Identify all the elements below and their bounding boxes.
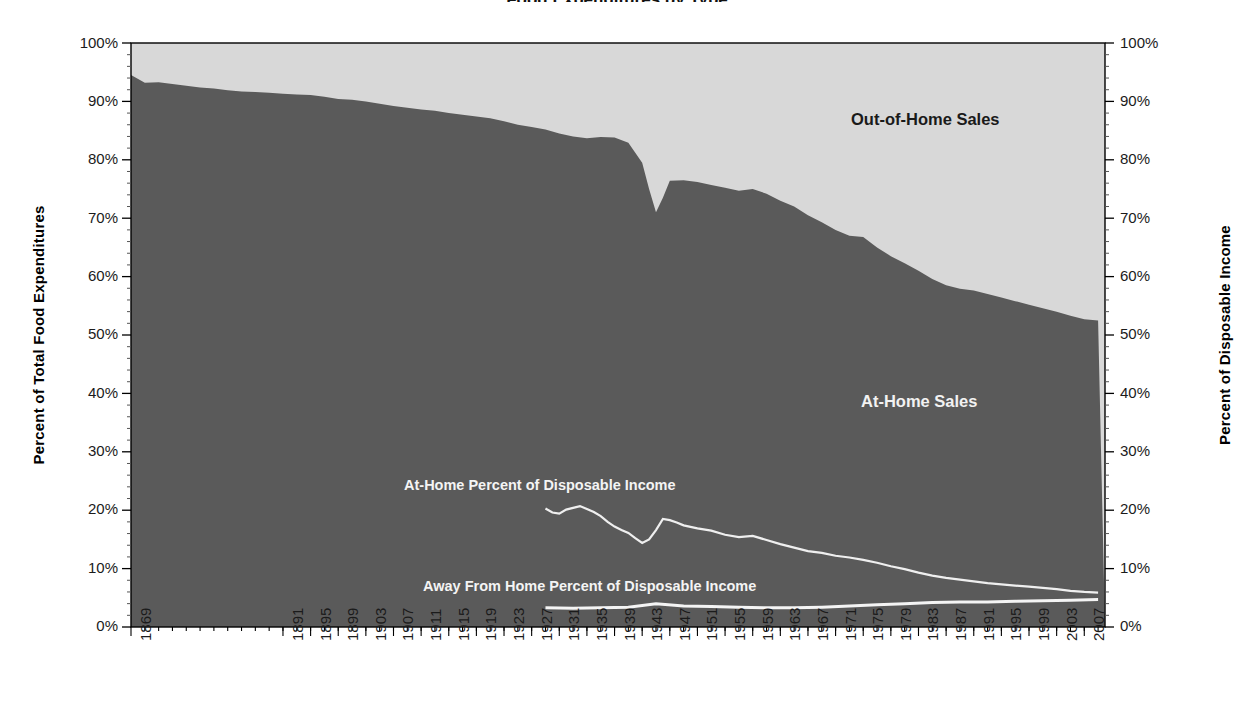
away-from-home-disposable-income-label: Away From Home Percent of Disposable Inc… [423,578,756,594]
x-tick-label: 1935 [593,608,610,641]
x-tick-label: 1923 [510,608,527,641]
x-tick-label: 1951 [703,608,720,641]
x-tick-label: 1963 [786,608,803,641]
x-tick-label: 1983 [924,608,941,641]
x-tick-label: 1995 [1007,608,1024,641]
at-home-sales-label: At-Home Sales [861,392,977,411]
x-tick-label: 1959 [759,608,776,641]
x-tick-label: 1979 [897,608,914,641]
x-tick-label: 1975 [869,608,886,641]
x-tick-label: 1931 [565,608,582,641]
out-of-home-sales-label: Out-of-Home Sales [851,110,1000,129]
at-home-disposable-income-label: At-Home Percent of Disposable Income [404,477,676,493]
x-tick-label: 1943 [648,608,665,641]
x-tick-label: 1939 [621,608,638,641]
right-axis-ticks [1105,43,1114,627]
x-tick-label: 2003 [1063,608,1080,641]
x-tick-label: 1915 [455,608,472,641]
x-tick-label: 1927 [538,608,555,641]
x-tick-label: 1911 [427,609,444,641]
x-tick-label: 1955 [731,608,748,641]
x-tick-label: 1967 [814,608,831,641]
chart-figure: Food Expenditures by Type Percent of Tot… [0,0,1234,716]
x-tick-label: 1895 [317,608,334,641]
x-tick-label: 1947 [676,608,693,641]
x-tick-label: 1907 [399,608,416,641]
x-tick-label: 1903 [372,608,389,641]
x-tick-label: 1919 [482,608,499,641]
x-tick-label: 2007 [1090,608,1107,641]
x-tick-label: 1891 [289,608,306,641]
x-tick-label: 1899 [344,608,361,641]
x-tick-label: 1971 [842,608,859,641]
x-tick-label: 1869 [137,608,154,641]
x-tick-label: 1999 [1035,608,1052,641]
x-tick-label: 1987 [952,608,969,641]
left-axis-ticks [122,43,131,627]
x-tick-label: 1991 [980,608,997,641]
